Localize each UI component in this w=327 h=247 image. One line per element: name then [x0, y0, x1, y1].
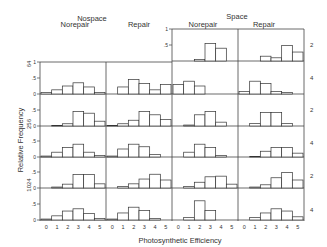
histogram-bar	[160, 180, 171, 188]
svg-text:1: 1	[55, 224, 58, 230]
histogram-bar	[128, 80, 139, 94]
histogram-bar	[84, 113, 95, 126]
histogram-grid-chart: 10.50.50.50.50.51.5642561024242424012345…	[0, 0, 327, 247]
histogram-bar	[84, 214, 95, 220]
histogram-bar	[271, 113, 282, 126]
histogram-bar	[150, 218, 161, 220]
histogram-bar	[118, 124, 129, 126]
row-label-left: 1024	[26, 178, 32, 192]
histogram-bar	[41, 156, 52, 157]
histogram-bar	[239, 91, 250, 94]
histogram-bar	[260, 151, 271, 157]
svg-text:0: 0	[33, 123, 36, 129]
svg-text:5: 5	[296, 224, 299, 230]
histogram-bar	[250, 187, 261, 188]
histogram-bar	[271, 91, 282, 94]
histogram-bar	[128, 120, 139, 126]
histogram-bar	[282, 92, 293, 94]
histogram-bar	[41, 219, 52, 220]
svg-text:.5: .5	[32, 107, 36, 113]
histogram-bar	[62, 211, 73, 220]
svg-text:5: 5	[164, 224, 167, 230]
histogram-bar	[282, 147, 293, 157]
column-label-nospace-repair: Repair	[128, 20, 151, 29]
svg-text:3: 3	[275, 224, 278, 230]
histogram-bar	[62, 184, 73, 188]
histogram-bar	[250, 123, 261, 126]
histogram-bar	[150, 115, 161, 126]
histogram-bar	[282, 211, 293, 220]
histogram-bar	[184, 152, 195, 157]
histogram-bar	[194, 201, 205, 220]
svg-text:4: 4	[87, 224, 90, 230]
histogram-bar	[216, 155, 227, 157]
histogram-bar	[41, 92, 52, 94]
histogram-bar	[271, 58, 282, 61]
histogram-bar	[184, 81, 195, 94]
histogram-bar	[139, 210, 150, 220]
histogram-bar	[292, 153, 303, 157]
histogram-bar	[194, 86, 205, 94]
svg-text:.5: .5	[32, 138, 36, 144]
histogram-bar	[150, 154, 161, 157]
histogram-bar	[271, 147, 282, 157]
histogram-bar	[292, 217, 303, 220]
svg-text:2: 2	[132, 224, 135, 230]
column-label-space-repair: Repair	[253, 20, 276, 29]
svg-text:0: 0	[33, 154, 36, 160]
histogram-bar	[84, 87, 95, 94]
histogram-bar	[118, 87, 129, 94]
svg-text:1: 1	[187, 224, 190, 230]
histogram-bar	[160, 120, 171, 126]
histogram-bar	[139, 179, 150, 188]
svg-text:3: 3	[77, 224, 80, 230]
row-label-right: 4	[310, 140, 314, 146]
svg-text:0: 0	[33, 91, 36, 97]
svg-text:0: 0	[45, 224, 48, 230]
svg-text:.5: .5	[32, 201, 36, 207]
histogram-bar	[62, 86, 73, 94]
histogram-bar	[194, 182, 205, 188]
histogram-bar	[94, 155, 105, 157]
svg-text:2: 2	[66, 224, 69, 230]
histogram-bar	[250, 217, 261, 220]
histogram-bar	[84, 152, 95, 157]
histogram-bar	[292, 52, 303, 61]
svg-text:0: 0	[243, 224, 246, 230]
svg-text:.5: .5	[164, 42, 168, 48]
histogram-bar	[128, 184, 139, 188]
svg-text:1: 1	[33, 59, 36, 65]
histogram-bar	[128, 144, 139, 157]
histogram-bar	[94, 121, 105, 126]
histogram-bar	[118, 149, 129, 157]
histogram-bar	[194, 144, 205, 157]
histogram-bar	[94, 92, 105, 94]
svg-text:3: 3	[209, 224, 212, 230]
histogram-bar	[118, 186, 129, 188]
svg-text:4: 4	[153, 224, 156, 230]
row-label-right: 2	[310, 42, 314, 48]
histogram-bar	[73, 112, 84, 126]
histogram-bar	[184, 217, 195, 220]
svg-text:2: 2	[264, 224, 267, 230]
histogram-bar	[73, 175, 84, 188]
svg-text:4: 4	[285, 224, 288, 230]
histogram-bar	[150, 90, 161, 94]
svg-text:0: 0	[177, 224, 180, 230]
histogram-bar	[52, 90, 63, 94]
histogram-bar	[205, 43, 216, 61]
histogram-bar	[139, 83, 150, 94]
histogram-bar	[194, 115, 205, 126]
svg-text:3: 3	[143, 224, 146, 230]
histogram-bar	[150, 174, 161, 188]
column-label-nospace-norepair: Norepair	[61, 20, 90, 29]
histogram-bar	[62, 147, 73, 157]
histogram-bar	[184, 125, 195, 126]
svg-text:5: 5	[230, 224, 233, 230]
histogram-bar	[107, 156, 118, 157]
row-label-right: 2	[310, 173, 314, 179]
histogram-bar	[216, 176, 227, 188]
row-label-left: 64	[26, 60, 32, 67]
histogram-bar	[107, 125, 118, 126]
histogram-bar	[260, 56, 271, 61]
